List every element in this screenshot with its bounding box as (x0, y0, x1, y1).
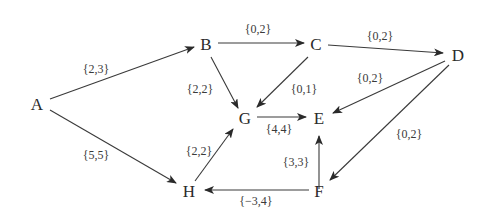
edge-label-c-d: {0,2} (367, 29, 394, 43)
node-e: E (314, 109, 324, 128)
node-h: H (183, 182, 195, 201)
edge-b-g (211, 57, 238, 108)
edge-label-g-e: {4,4} (266, 122, 293, 136)
edge-label-h-g: {2,2} (186, 144, 213, 158)
nodes: A B C D G E H F (31, 35, 464, 201)
edge-label-c-g: {0,1} (291, 82, 318, 96)
edge-label-d-f: {0,2} (396, 127, 423, 141)
edge-label-f-e: {3,3} (283, 155, 310, 169)
edge-label-a-h: {5,5} (83, 148, 110, 162)
edge-label-a-b: {2,3} (83, 62, 110, 76)
edge-d-f (330, 65, 449, 180)
node-b: B (200, 35, 211, 54)
edge-label-f-h: {−3,4} (239, 194, 272, 208)
edge-label-d-e: {0,2} (357, 71, 384, 85)
graph-canvas: {2,3} {5,5} {0,2} {0,2} {2,2} {0,1} {0,2… (0, 0, 483, 222)
edge-c-d (328, 45, 443, 53)
edge-label-b-g: {2,2} (187, 82, 214, 96)
node-d: D (452, 46, 464, 65)
edge-a-b (50, 47, 194, 99)
edge-a-h (50, 110, 176, 183)
node-a: A (31, 95, 44, 114)
edge-d-e (333, 61, 445, 113)
node-f: F (314, 182, 323, 201)
node-c: C (310, 35, 321, 54)
node-g: G (239, 109, 251, 128)
edge-labels: {2,3} {5,5} {0,2} {0,2} {2,2} {0,1} {0,2… (83, 22, 423, 208)
edge-label-b-c: {0,2} (245, 22, 272, 36)
